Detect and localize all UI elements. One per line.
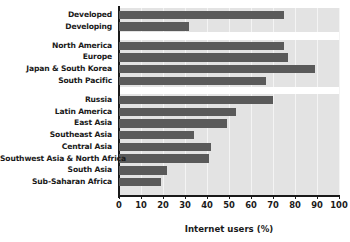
- tick-mark: [251, 196, 252, 199]
- bar: [119, 166, 167, 175]
- tick-mark: [339, 196, 340, 199]
- tick-mark: [185, 196, 186, 199]
- category-labels: DevelopedDevelopingNorth AmericaEuropeJa…: [0, 8, 115, 195]
- tick-mark: [229, 196, 230, 199]
- tick-mark: [273, 196, 274, 199]
- tick-mark: [207, 196, 208, 199]
- category-label: North America: [0, 42, 112, 50]
- category-label: Latin America: [0, 108, 112, 116]
- category-label: Developing: [0, 23, 112, 31]
- bar: [119, 154, 209, 163]
- tick-label: 60: [239, 201, 263, 209]
- tick-mark: [141, 196, 142, 199]
- bar: [119, 108, 236, 117]
- bar: [119, 53, 288, 62]
- bar: [119, 96, 273, 105]
- tick-label: 100: [327, 201, 350, 209]
- tick-label: 0: [107, 201, 131, 209]
- group-separator: [119, 32, 339, 40]
- category-label: Southwest Asia & North Africa: [0, 155, 112, 163]
- category-label: Central Asia: [0, 143, 112, 151]
- internet-users-bar-chart: DevelopedDevelopingNorth AmericaEuropeJa…: [0, 0, 350, 242]
- tick-mark: [295, 196, 296, 199]
- bar: [119, 178, 161, 187]
- bar: [119, 131, 194, 140]
- tick-label: 30: [173, 201, 197, 209]
- category-label: Sub-Saharan Africa: [0, 178, 112, 186]
- tick-mark: [119, 196, 120, 199]
- category-label: East Asia: [0, 119, 112, 127]
- bar: [119, 22, 189, 31]
- bar: [119, 42, 284, 51]
- category-label: South Pacific: [0, 77, 112, 85]
- category-label: Europe: [0, 53, 112, 61]
- tick-label: 70: [261, 201, 285, 209]
- tick-label: 10: [129, 201, 153, 209]
- bar: [119, 143, 211, 152]
- tick-label: 40: [195, 201, 219, 209]
- tick-mark: [317, 196, 318, 199]
- x-axis-title: Internet users (%): [119, 225, 339, 234]
- category-label: Russia: [0, 96, 112, 104]
- category-label: Developed: [0, 11, 112, 19]
- category-label: South Asia: [0, 166, 112, 174]
- bar: [119, 119, 227, 128]
- tick-mark: [163, 196, 164, 199]
- category-label: Japan & South Korea: [0, 65, 112, 73]
- bar: [119, 11, 284, 20]
- bar: [119, 65, 315, 74]
- bar: [119, 77, 266, 86]
- tick-label: 90: [305, 201, 329, 209]
- tick-label: 20: [151, 201, 175, 209]
- group-separator: [119, 87, 339, 95]
- gridline: [339, 8, 340, 195]
- tick-label: 50: [217, 201, 241, 209]
- category-label: Southeast Asia: [0, 131, 112, 139]
- tick-label: 80: [283, 201, 307, 209]
